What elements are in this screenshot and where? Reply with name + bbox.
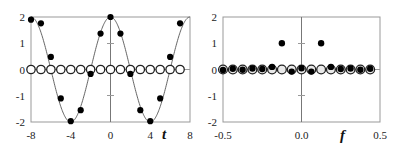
x-tick-label: -4 — [66, 129, 76, 141]
open-marker — [76, 65, 84, 73]
y-tick-label: -2 — [208, 116, 217, 128]
filled-marker — [308, 68, 314, 74]
filled-marker — [28, 17, 34, 23]
open-marker — [136, 65, 144, 73]
filled-marker — [167, 54, 173, 60]
open-marker — [67, 65, 75, 73]
y-tick-labels-right: 210-1-2 — [208, 11, 218, 128]
y-tick-label: -2 — [16, 116, 25, 128]
y-tick-label: 1 — [20, 37, 26, 49]
open-marker — [27, 65, 35, 73]
open-marker — [277, 65, 286, 74]
filled-marker — [38, 20, 44, 26]
filled-marker — [68, 118, 74, 124]
open-marker — [156, 65, 164, 73]
filled-marker — [107, 14, 113, 20]
open-marker — [116, 65, 124, 73]
filled-marker — [220, 67, 226, 73]
filled-marker — [347, 65, 353, 71]
filled-marker — [239, 67, 245, 73]
filled-marker — [78, 107, 84, 113]
filled-marker — [117, 30, 123, 36]
filled-marker — [269, 64, 275, 70]
x-tick-label: 0 — [108, 129, 114, 141]
filled-marker — [97, 30, 103, 36]
filled-marker — [230, 66, 236, 72]
frequency-domain-plot: 210-1-2 -0.50.00.5 f — [208, 11, 388, 143]
filled-marker — [58, 95, 64, 101]
x-tick-label: -0.5 — [214, 129, 232, 141]
open-marker — [166, 65, 174, 73]
filled-marker — [88, 71, 94, 77]
x-tick-label: 4 — [148, 129, 154, 141]
y-tick-label: -1 — [208, 90, 217, 102]
open-marker — [317, 65, 326, 74]
y-tick-label: 2 — [20, 11, 26, 23]
y-tick-label: 0 — [212, 64, 218, 76]
filled-marker — [298, 65, 304, 71]
y-tick-label: 2 — [212, 11, 218, 23]
y-tick-label: 1 — [212, 37, 218, 49]
filled-marker — [357, 67, 363, 73]
x-tick-label: 0.5 — [373, 129, 387, 141]
filled-marker — [338, 66, 344, 72]
open-marker — [96, 65, 104, 73]
x-axis-label-t: t — [162, 126, 167, 142]
open-marker — [57, 65, 65, 73]
x-tick-labels-left: -8-4048 — [26, 129, 193, 141]
filled-marker — [328, 64, 334, 70]
x-tick-label: 0.0 — [295, 129, 309, 141]
open-marker — [106, 65, 114, 73]
chart-canvas: 210-1-2 -8-4048 t 210-1-2 -0.50.00.5 f — [0, 0, 396, 151]
open-marker — [47, 65, 55, 73]
filled-marker — [259, 66, 265, 72]
y-tick-label: 0 — [20, 64, 26, 76]
filled-marker — [279, 40, 285, 46]
x-tick-labels-right: -0.50.00.5 — [214, 129, 387, 141]
x-tick-label: 8 — [187, 129, 193, 141]
open-marker — [176, 65, 184, 73]
filled-marker — [48, 54, 54, 60]
filled-marker — [288, 68, 294, 74]
filled-marker — [157, 95, 163, 101]
x-tick-label: -8 — [26, 129, 36, 141]
filled-marker — [177, 20, 183, 26]
filled-marker — [127, 71, 133, 77]
y-tick-label: -1 — [16, 90, 25, 102]
time-domain-plot: 210-1-2 -8-4048 t — [16, 11, 193, 142]
filled-marker — [318, 40, 324, 46]
open-marker — [37, 65, 45, 73]
y-tick-labels-left: 210-1-2 — [16, 11, 26, 128]
x-axis-label-f: f — [340, 127, 347, 143]
filled-marker — [367, 66, 373, 72]
filled-marker — [147, 118, 153, 124]
filled-marker — [137, 107, 143, 113]
filled-marker — [249, 65, 255, 71]
open-marker — [146, 65, 154, 73]
